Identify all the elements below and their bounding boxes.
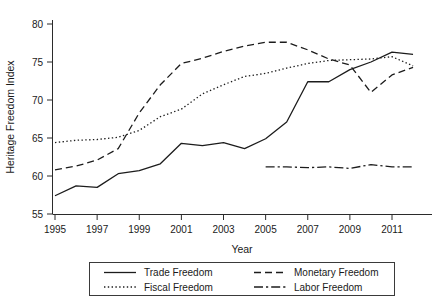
y-axis-title: Heritage Freedom Index (4, 60, 16, 174)
data-series-group (55, 42, 413, 196)
x-tick-label: 2003 (212, 224, 235, 235)
legend-label-trade-freedom: Trade Freedom (144, 267, 213, 278)
x-tick-label: 2007 (297, 224, 320, 235)
chart-figure: 556065707580 199519971999200120032005200… (0, 0, 440, 300)
x-tick-label: 1997 (86, 224, 109, 235)
x-tick-label: 1999 (128, 224, 151, 235)
line-chart: 556065707580 199519971999200120032005200… (0, 0, 440, 300)
x-tick-label: 2011 (381, 224, 403, 235)
x-tick-label: 2001 (170, 224, 193, 235)
x-tick-label: 2009 (339, 224, 362, 235)
legend-label-fiscal-freedom: Fiscal Freedom (144, 282, 213, 293)
legend-label-labor-freedom: Labor Freedom (294, 282, 362, 293)
series-line-fiscal-freedom (55, 57, 413, 143)
series-line-monetary-freedom (55, 42, 413, 170)
y-tick-label: 55 (32, 209, 44, 220)
y-tick-label: 65 (32, 133, 44, 144)
chart-legend: Trade FreedomMonetary FreedomFiscal Free… (90, 263, 395, 296)
x-tick-label: 2005 (255, 224, 278, 235)
y-tick-label: 75 (32, 57, 44, 68)
legend-label-monetary-freedom: Monetary Freedom (294, 267, 378, 278)
y-tick-label: 80 (32, 19, 44, 30)
x-axis-title: Year (231, 243, 253, 255)
series-line-trade-freedom (55, 52, 413, 196)
y-tick-label: 70 (32, 95, 44, 106)
y-axis-ticks: 556065707580 (32, 19, 53, 220)
y-tick-label: 60 (32, 171, 44, 182)
x-tick-label: 1995 (44, 224, 67, 235)
x-axis-ticks: 199519971999200120032005200720092011 (44, 215, 403, 236)
series-line-labor-freedom (266, 165, 413, 169)
